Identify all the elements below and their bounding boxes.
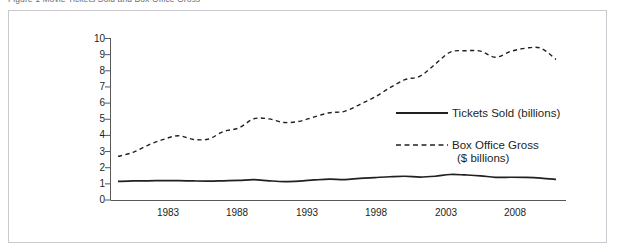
legend-label-box-office-gross: Box Office Gross bbox=[452, 139, 539, 152]
legend-label-tickets-sold: Tickets Sold (billions) bbox=[452, 107, 560, 120]
legend-label-box-office-gross-units: ($ billions) bbox=[457, 152, 509, 165]
chart-svg bbox=[0, 0, 618, 251]
chart-plot-area: 10 9 8 7 6 5 4 3 2 1 0 1983 1988 1993 19… bbox=[0, 0, 618, 251]
series-line-tickets-sold bbox=[118, 174, 556, 181]
